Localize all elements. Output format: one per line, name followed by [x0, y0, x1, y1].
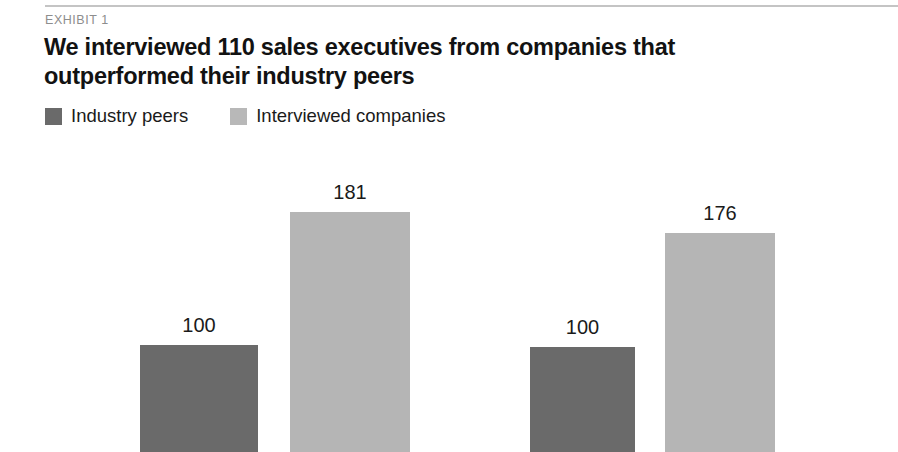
legend-label-interviewed-companies: Interviewed companies: [256, 107, 445, 126]
bar-1: [140, 345, 258, 452]
bar-value-label-4: 176: [665, 203, 775, 223]
page-title-line-1: We interviewed 110 sales executives from…: [44, 33, 804, 62]
legend-item-interviewed-companies: Interviewed companies: [230, 107, 445, 126]
top-divider-rule: [45, 5, 898, 7]
legend-label-industry-peers: Industry peers: [71, 107, 188, 126]
bar-chart-plot-area: 100181100176: [0, 150, 898, 452]
legend-swatch-interviewed-companies: [230, 108, 247, 125]
exhibit-chart-panel: EXHIBIT 1 We interviewed 110 sales execu…: [0, 0, 898, 452]
bar-4: [665, 233, 775, 452]
bar-value-label-3: 100: [530, 317, 635, 337]
bar-3: [530, 347, 635, 452]
bar-value-label-1: 100: [140, 315, 258, 335]
page-title: We interviewed 110 sales executives from…: [44, 33, 804, 91]
legend-item-industry-peers: Industry peers: [45, 107, 188, 126]
chart-legend: Industry peers Interviewed companies: [45, 103, 445, 129]
legend-swatch-industry-peers: [45, 108, 62, 125]
bar-value-label-2: 181: [290, 182, 410, 202]
bar-2: [290, 212, 410, 452]
exhibit-eyebrow-label: EXHIBIT 1: [45, 13, 109, 27]
page-title-line-2: outperformed their industry peers: [44, 62, 804, 91]
